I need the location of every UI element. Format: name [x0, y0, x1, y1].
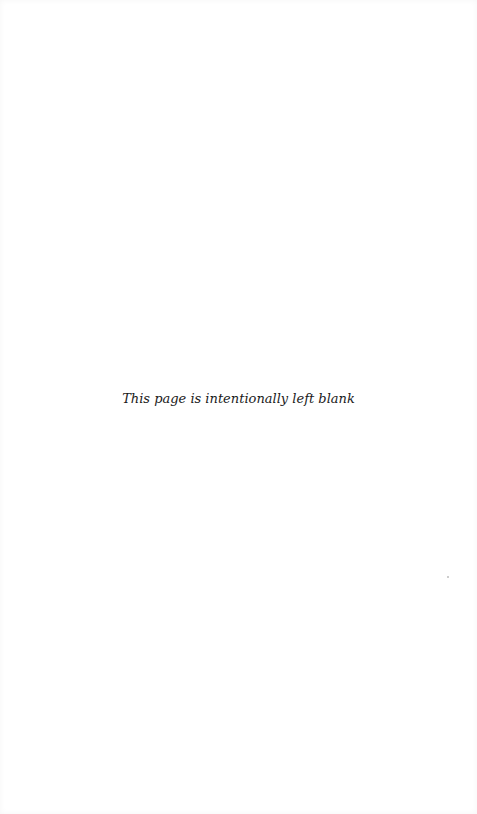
blank-page: This page is intentionally left blank	[0, 0, 477, 814]
scan-speck	[447, 576, 449, 578]
blank-page-notice: This page is intentionally left blank	[0, 391, 477, 406]
